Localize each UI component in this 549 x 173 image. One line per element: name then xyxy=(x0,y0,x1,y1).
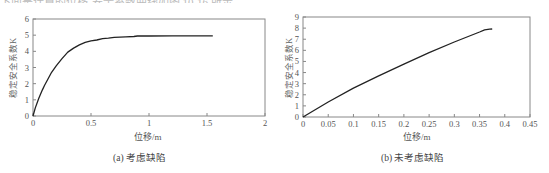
x-tick-label: 0.4 xyxy=(499,119,510,129)
x-tick-label: 0.05 xyxy=(321,119,336,129)
caption-b: (b) 未考虑缺陷 xyxy=(381,150,444,164)
y-tick-label: 0 xyxy=(295,112,299,122)
plot-frame xyxy=(303,17,530,117)
x-tick-label: 0.25 xyxy=(422,119,437,129)
y-tick-label: 4 xyxy=(295,68,300,78)
x-tick-label: 0.1 xyxy=(348,119,359,129)
y-tick-label: 5 xyxy=(295,56,299,66)
y-tick-label: 2 xyxy=(295,90,299,100)
x-tick-label: 0 xyxy=(301,119,305,129)
x-axis-label-b: 位移/m xyxy=(403,130,431,143)
data-line xyxy=(303,29,492,117)
y-tick-label: 6 xyxy=(295,45,299,55)
x-tick-label: 0.35 xyxy=(472,119,487,129)
y-axis-label-b: 稳定安全系数K xyxy=(282,38,294,98)
x-tick-label: 0.3 xyxy=(449,119,460,129)
chart-plot-b: 00.050.10.150.20.250.30.350.40.450123456… xyxy=(0,0,549,173)
y-tick-label: 3 xyxy=(295,79,299,89)
chart-panel-b: 00.050.10.150.20.250.30.350.40.450123456… xyxy=(0,0,549,173)
y-tick-label: 9 xyxy=(295,12,299,22)
y-tick-label: 1 xyxy=(295,101,299,111)
x-tick-label: 0.2 xyxy=(399,119,410,129)
x-tick-label: 0.45 xyxy=(523,119,538,129)
x-tick-label: 0.15 xyxy=(371,119,386,129)
y-tick-label: 7 xyxy=(295,34,299,44)
y-tick-label: 8 xyxy=(295,23,299,33)
